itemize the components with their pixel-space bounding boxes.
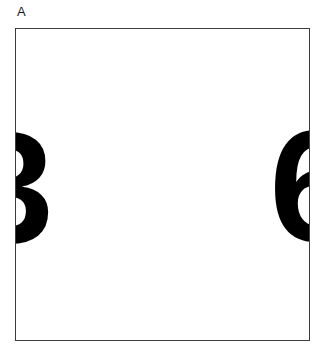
panel-label: A bbox=[17, 5, 26, 18]
stimulus-digit-left: 3 bbox=[16, 108, 54, 266]
figure-panel-a: A 3 6 bbox=[0, 0, 327, 360]
stimulus-frame: 3 6 bbox=[15, 28, 310, 341]
stimulus-digit-right: 6 bbox=[269, 106, 309, 264]
stimulus-field: 3 6 bbox=[16, 29, 309, 340]
